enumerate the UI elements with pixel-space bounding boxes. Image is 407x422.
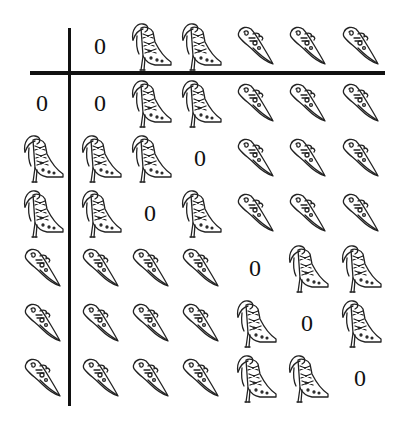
high-heeled-boot-icon (284, 352, 330, 404)
flat-pointed-shoe-icon (235, 81, 275, 125)
table-cell (75, 296, 125, 350)
table-cell (125, 241, 175, 295)
table-cell (75, 186, 125, 240)
high-heeled-boot-icon (177, 187, 223, 239)
header-cell (335, 19, 385, 73)
table-cell: 0 (282, 296, 332, 350)
high-heeled-boot-icon (232, 297, 278, 349)
table-cell (335, 296, 385, 350)
header-cell (175, 19, 225, 73)
flat-pointed-shoe-icon (22, 301, 62, 345)
flat-pointed-shoe-icon (22, 356, 62, 400)
table-cell (230, 351, 280, 405)
table-cell (175, 296, 225, 350)
header-cell: 0 (75, 19, 125, 73)
table-cell (335, 186, 385, 240)
table-cell (282, 186, 332, 240)
row-label (17, 351, 67, 405)
flat-pointed-shoe-icon (340, 24, 380, 68)
high-heeled-boot-icon (337, 297, 383, 349)
label-divider-line (68, 28, 71, 406)
high-heeled-boot-icon (127, 132, 173, 184)
table-cell (125, 296, 175, 350)
row-label (17, 296, 67, 350)
high-heeled-boot-icon (77, 132, 123, 184)
table-cell (125, 76, 175, 130)
flat-pointed-shoe-icon (287, 24, 327, 68)
high-heeled-boot-icon (337, 242, 383, 294)
high-heeled-boot-icon (177, 77, 223, 129)
high-heeled-boot-icon (284, 242, 330, 294)
table-cell (125, 131, 175, 185)
table-cell (230, 186, 280, 240)
flat-pointed-shoe-icon (287, 191, 327, 235)
table-cell (335, 241, 385, 295)
zero-symbol: 0 (354, 365, 366, 392)
zero-symbol: 0 (249, 255, 261, 282)
table-cell (75, 241, 125, 295)
table-cell (75, 131, 125, 185)
flat-pointed-shoe-icon (235, 24, 275, 68)
zero-symbol: 0 (301, 310, 313, 337)
header-cell (282, 19, 332, 73)
flat-pointed-shoe-icon (130, 301, 170, 345)
table-cell (282, 76, 332, 130)
table-cell (335, 76, 385, 130)
table-cell (175, 241, 225, 295)
table-cell (175, 76, 225, 130)
row-label (17, 241, 67, 295)
table-cell (335, 131, 385, 185)
high-heeled-boot-icon (19, 187, 65, 239)
table-cell: 0 (175, 131, 225, 185)
row-label: 0 (17, 76, 67, 130)
high-heeled-boot-icon (177, 20, 223, 72)
high-heeled-boot-icon (77, 187, 123, 239)
flat-pointed-shoe-icon (130, 246, 170, 290)
flat-pointed-shoe-icon (287, 81, 327, 125)
table-cell: 0 (230, 241, 280, 295)
flat-pointed-shoe-icon (180, 246, 220, 290)
flat-pointed-shoe-icon (22, 246, 62, 290)
table-cell (282, 241, 332, 295)
flat-pointed-shoe-icon (287, 136, 327, 180)
table-cell (230, 296, 280, 350)
table-cell (175, 351, 225, 405)
flat-pointed-shoe-icon (80, 356, 120, 400)
table-cell (125, 351, 175, 405)
table-cell: 0 (125, 186, 175, 240)
flat-pointed-shoe-icon (340, 136, 380, 180)
flat-pointed-shoe-icon (340, 191, 380, 235)
zero-symbol: 0 (36, 90, 48, 117)
flat-pointed-shoe-icon (180, 356, 220, 400)
table-cell (230, 131, 280, 185)
zero-symbol: 0 (144, 200, 156, 227)
table-cell (282, 131, 332, 185)
flat-pointed-shoe-icon (235, 191, 275, 235)
row-label (17, 186, 67, 240)
flat-pointed-shoe-icon (80, 246, 120, 290)
zero-symbol: 0 (94, 90, 106, 117)
zero-symbol: 0 (194, 145, 206, 172)
flat-pointed-shoe-icon (180, 301, 220, 345)
table-cell: 0 (75, 76, 125, 130)
zero-symbol: 0 (94, 33, 106, 60)
table-cell (282, 351, 332, 405)
table-cell (175, 186, 225, 240)
table-cell (75, 351, 125, 405)
high-heeled-boot-icon (127, 77, 173, 129)
header-cell (230, 19, 280, 73)
row-label (17, 131, 67, 185)
header-cell (125, 19, 175, 73)
flat-pointed-shoe-icon (235, 136, 275, 180)
table-cell: 0 (335, 351, 385, 405)
high-heeled-boot-icon (19, 132, 65, 184)
flat-pointed-shoe-icon (80, 301, 120, 345)
table-cell (230, 76, 280, 130)
high-heeled-boot-icon (127, 20, 173, 72)
flat-pointed-shoe-icon (340, 81, 380, 125)
flat-pointed-shoe-icon (130, 356, 170, 400)
high-heeled-boot-icon (232, 352, 278, 404)
